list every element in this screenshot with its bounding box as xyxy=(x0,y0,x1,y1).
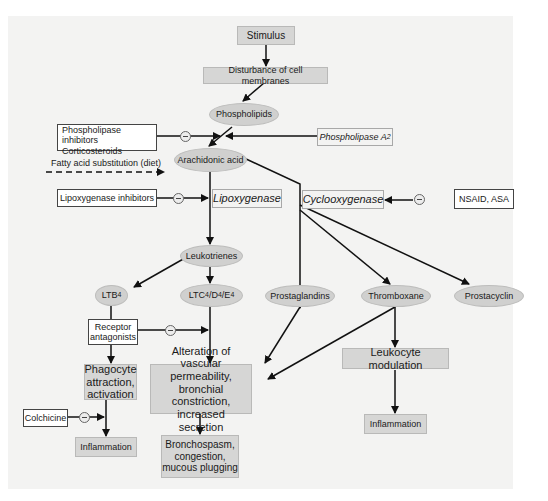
bronchospasm-label-line1: Bronchospasm, xyxy=(165,439,234,451)
alteration-node: Alteration of vascular permeability, bro… xyxy=(150,364,252,414)
leukotrienes-label: Leukotrienes xyxy=(186,251,238,261)
phospholipids-node: Phospholipids xyxy=(209,103,279,126)
ltb4-node: LTB4 xyxy=(95,285,128,306)
stimulus-label: Stimulus xyxy=(247,30,285,42)
inflammation-left-label: Inflammation xyxy=(80,442,132,452)
fatty-acid-label-node: Fatty acid substitution (diet) xyxy=(46,156,166,170)
phagocyte-node: Phagocyte attraction, activation xyxy=(84,364,137,400)
cyclooxygenase-label: Cyclooxygenase xyxy=(303,193,384,206)
disturbance-node: Disturbance of cell membranes xyxy=(203,67,328,84)
arachidonic-acid-node: Arachidonic acid xyxy=(174,148,247,172)
bronchospasm-label-line3: mucous plugging xyxy=(162,462,238,474)
nsaid-inhibition-icon xyxy=(414,194,425,205)
ltb4-subscript: 4 xyxy=(117,291,121,299)
arachidonic-acid-label: Arachidonic acid xyxy=(177,155,243,165)
lte-subscript: 4 xyxy=(230,291,234,299)
corticosteroids-label: Corticosteroids xyxy=(62,146,122,156)
lipoxygenase-inhibitors-node: Lipoxygenase inhibitors xyxy=(57,189,157,207)
phospholipase-inhibitors-label: Phospholipase inhibitors xyxy=(62,125,156,146)
fatty-acid-label: Fatty acid substitution (diet) xyxy=(51,158,161,168)
receptor-antagonists-node: Receptor antagonists xyxy=(88,319,138,345)
disturbance-label: Disturbance of cell membranes xyxy=(204,65,327,86)
alteration-label-line1: Alteration of vascular xyxy=(151,345,251,370)
alteration-label-line3: constriction, increased xyxy=(151,395,251,420)
colchicine-node: Colchicine xyxy=(23,409,68,427)
inflammation-left-node: Inflammation xyxy=(75,437,137,457)
leukocyte-modulation-label: Leukocyte modulation xyxy=(343,346,448,371)
colchicine-inhibition-icon xyxy=(79,412,90,423)
phagocyte-label-line1: Phagocyte xyxy=(85,363,137,376)
cyclooxygenase-node: Cyclooxygenase xyxy=(302,190,384,209)
leukocyte-modulation-node: Leukocyte modulation xyxy=(342,348,449,369)
prostaglandins-node: Prostaglandins xyxy=(265,285,335,307)
lipoxygenase-inhibition-icon xyxy=(173,193,184,204)
stimulus-node: Stimulus xyxy=(237,26,295,45)
phagocyte-label-line2: attraction, xyxy=(86,376,134,389)
bronchospasm-label-line2: congestion, xyxy=(174,451,225,463)
lte-label: /E xyxy=(222,290,231,300)
prostaglandins-label: Prostaglandins xyxy=(270,291,330,301)
ltc-d-e-node: LTC4/D4/E4 xyxy=(180,284,243,307)
ltb4-label: LTB xyxy=(102,290,118,300)
antagonists-label: antagonists xyxy=(90,332,136,342)
ltd-label: /D xyxy=(209,290,218,300)
thromboxane-label: Thromboxane xyxy=(368,291,424,301)
phospholipase-inhibition-icon xyxy=(180,131,191,142)
alteration-label-line2: permeability, bronchial xyxy=(151,370,251,395)
phospholipase-a2-subscript: 2 xyxy=(387,133,391,141)
nsaid-label: NSAID, ASA xyxy=(459,194,509,204)
ltc-label: LTC xyxy=(189,290,205,300)
leukotrienes-node: Leukotrienes xyxy=(180,245,243,267)
phospholipase-inhibitors-node: Phospholipase inhibitors Corticosteroids xyxy=(57,124,157,151)
lipoxygenase-node: Lipoxygenase xyxy=(212,189,282,208)
receptor-inhibition-icon xyxy=(165,325,176,336)
prostacyclin-label: Prostacyclin xyxy=(465,291,514,301)
colchicine-label: Colchicine xyxy=(25,413,67,423)
inflammation-right-node: Inflammation xyxy=(364,414,427,434)
receptor-label: Receptor xyxy=(95,322,132,332)
bronchospasm-node: Bronchospasm, congestion, mucous pluggin… xyxy=(161,435,239,478)
prostacyclin-node: Prostacyclin xyxy=(454,285,524,307)
phagocyte-label-line3: activation xyxy=(87,388,133,401)
thromboxane-node: Thromboxane xyxy=(361,285,431,307)
alteration-label-line4: secretion xyxy=(179,421,224,434)
phospholipids-label: Phospholipids xyxy=(216,109,272,119)
nsaid-node: NSAID, ASA xyxy=(454,189,514,209)
phospholipase-a2-label: Phospholipase A xyxy=(319,132,386,142)
phospholipase-a2-node: Phospholipase A2 xyxy=(317,128,393,146)
inflammation-right-label: Inflammation xyxy=(370,419,422,429)
lipoxygenase-inhibitors-label: Lipoxygenase inhibitors xyxy=(60,193,154,203)
lipoxygenase-label: Lipoxygenase xyxy=(213,192,281,205)
